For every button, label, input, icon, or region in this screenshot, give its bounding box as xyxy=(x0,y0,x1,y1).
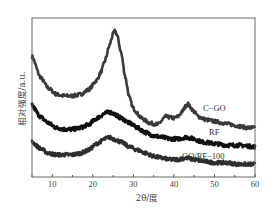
xrd-chart: 102030405060 C−GO RF GO/RF−100 2θ/度 相对强度… xyxy=(0,0,268,212)
x-tick-label: 60 xyxy=(251,179,260,189)
series-line-c-go xyxy=(32,30,255,130)
x-tick-label: 10 xyxy=(48,179,57,189)
x-axis-ticks: 102030405060 xyxy=(32,174,259,189)
y-axis-title: 相对强度/a.u. xyxy=(17,72,27,127)
x-axis-title: 2θ/度 xyxy=(136,193,158,203)
series-label-c-go: C−GO xyxy=(203,103,226,113)
x-tick-label: 20 xyxy=(89,179,98,189)
series-labels: C−GO RF GO/RF−100 xyxy=(182,103,226,161)
series-label-rf: RF xyxy=(209,127,220,137)
series-label-go-rf-100: GO/RF−100 xyxy=(182,151,225,161)
x-tick-label: 40 xyxy=(170,179,179,189)
x-tick-label: 30 xyxy=(129,179,138,189)
series-layer xyxy=(32,30,255,166)
x-tick-label: 50 xyxy=(210,179,219,189)
